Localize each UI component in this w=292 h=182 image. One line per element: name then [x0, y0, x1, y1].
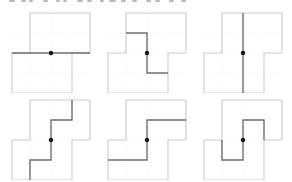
clipped-caption: [0, 0, 292, 4]
figure-sheet: [0, 0, 292, 182]
figure-panel-staircase-cut: [5, 96, 95, 180]
figure-panel-hooked-s-cut: [197, 96, 287, 180]
figure-panel-z-cut-right-left: [101, 96, 191, 180]
figure-panel-horizontal-cut: [5, 9, 95, 93]
figure-panel-vertical-cut: [197, 9, 287, 93]
center-dot: [49, 138, 53, 142]
center-dot: [241, 138, 245, 142]
center-dot: [49, 51, 53, 55]
center-dot: [241, 51, 245, 55]
figure-panel-z-cut-left-right: [101, 9, 191, 93]
center-dot: [145, 138, 149, 142]
center-dot: [145, 51, 149, 55]
